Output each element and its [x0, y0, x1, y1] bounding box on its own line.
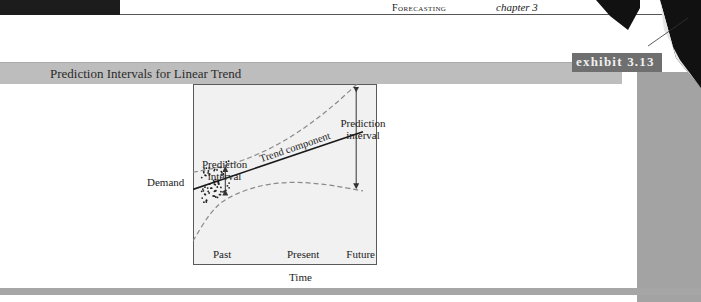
- corner-black-diamond: [596, 0, 640, 30]
- bottom-rule-bar: [0, 288, 701, 295]
- data-point: [202, 188, 204, 190]
- lower-prediction-bound: [193, 182, 363, 241]
- data-point: [220, 191, 222, 193]
- header-rule: [120, 14, 680, 15]
- x-tick-present: Present: [287, 248, 319, 260]
- data-point: [214, 190, 216, 192]
- data-point: [227, 185, 229, 187]
- annotation-line: interval: [340, 129, 385, 141]
- annotation-prediction-interval-past: Prediction interval: [202, 158, 247, 182]
- data-point: [212, 195, 214, 197]
- annotation-prediction-interval-future: Prediction interval: [340, 117, 385, 141]
- x-tick-future: Future: [346, 248, 375, 260]
- header-chapter-label: chapter 3: [496, 1, 538, 13]
- data-point: [210, 187, 212, 189]
- exhibit-title: Prediction Intervals for Linear Trend: [50, 66, 241, 82]
- data-point: [204, 186, 206, 188]
- data-point: [203, 201, 205, 203]
- data-point: [220, 187, 222, 189]
- annotation-line: Prediction: [340, 117, 385, 129]
- data-point: [219, 194, 221, 196]
- right-margin-strip: [637, 72, 701, 302]
- data-point: [228, 182, 230, 184]
- x-axis-label: Time: [289, 271, 312, 283]
- exhibit-tag-label: exhibit 3.13: [576, 54, 655, 70]
- data-point: [214, 184, 216, 186]
- data-point: [207, 190, 209, 192]
- data-point: [205, 201, 207, 203]
- data-point: [207, 187, 209, 189]
- data-point: [216, 186, 218, 188]
- data-point: [201, 190, 203, 192]
- data-point: [208, 192, 210, 194]
- data-point: [201, 197, 203, 199]
- data-point: [215, 196, 217, 198]
- annotation-line: Prediction: [202, 158, 247, 170]
- data-point: [203, 190, 205, 192]
- data-point: [205, 194, 207, 196]
- x-tick-past: Past: [213, 248, 231, 260]
- annotation-line: interval: [202, 170, 247, 182]
- corner-diagonal-line: [648, 18, 688, 46]
- trend-component-label: Trend component: [258, 130, 332, 164]
- y-axis-label: Demand: [147, 176, 184, 188]
- data-point: [217, 197, 219, 199]
- header-section-title: Forecasting: [392, 2, 446, 13]
- data-point: [228, 187, 230, 189]
- header-dark-block: [0, 0, 120, 15]
